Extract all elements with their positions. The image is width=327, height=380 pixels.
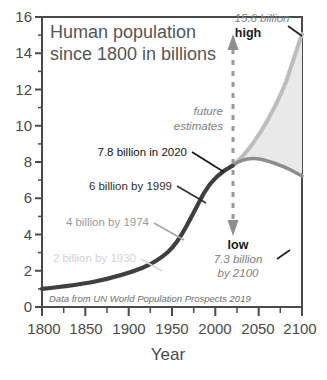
x-tick-label-1900: 1900: [112, 320, 145, 337]
chart-title-line1: Human population: [50, 22, 196, 42]
high-value-label: 15.6 billion: [235, 12, 290, 24]
future-estimates-label-line2: estimates: [174, 120, 223, 132]
population-chart: 0 2 4 6 8 10 12 14 16 1800 1850 1900 195…: [0, 0, 327, 380]
x-tick-label-1850: 1850: [69, 320, 102, 337]
x-axis-major-ticks: [42, 307, 302, 316]
low-name-label: low: [228, 238, 249, 252]
low-value-label-line2: by 2100: [218, 267, 260, 279]
y-tick-label-14: 14: [15, 44, 32, 61]
chart-canvas: 0 2 4 6 8 10 12 14 16 1800 1850 1900 195…: [0, 0, 327, 380]
y-tick-label-6: 6: [24, 189, 32, 206]
annotation-1974: 4 billion by 1974: [66, 216, 150, 228]
y-tick-label-2: 2: [24, 262, 32, 279]
future-estimates-label-line1: future: [194, 105, 223, 117]
x-tick-label-2100: 2100: [283, 320, 316, 337]
y-tick-label-10: 10: [15, 117, 32, 134]
low-value-label-line1: 7.3 billion: [214, 253, 263, 265]
y-tick-label-8: 8: [24, 153, 32, 170]
y-tick-label-12: 12: [15, 81, 32, 98]
high-name-label: high: [235, 26, 261, 40]
x-tick-label-2050: 2050: [241, 320, 274, 337]
source-note: Data from UN World Population Prospects …: [49, 293, 251, 304]
y-axis-major-ticks: [35, 17, 42, 307]
y-tick-label-16: 16: [15, 8, 32, 25]
y-tick-label-0: 0: [24, 298, 32, 315]
x-tick-label-1950: 1950: [155, 320, 188, 337]
x-tick-label-1800: 1800: [27, 320, 60, 337]
annotation-2020: 7.8 billion in 2020: [97, 146, 187, 158]
y-tick-label-4: 4: [24, 226, 32, 243]
chart-title-line2: since 1800 in billions: [50, 44, 216, 64]
x-tick-label-2000: 2000: [198, 320, 231, 337]
x-axis-title: Year: [151, 345, 186, 364]
annotation-1999: 6 billion by 1999: [89, 180, 172, 192]
annotation-1930: 2 billion by 1930: [53, 252, 136, 264]
